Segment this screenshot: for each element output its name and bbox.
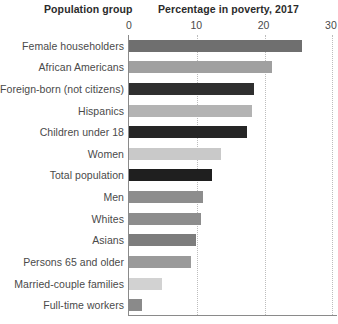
population-group-header: Population group [44,3,133,15]
bar-category-label: Foreign-born (not citizens) [0,83,124,95]
x-tick-label: 20 [258,19,270,31]
bar[interactable] [129,213,201,225]
bar-row[interactable]: Female householders [0,35,338,57]
bar[interactable] [129,148,221,160]
bar-row[interactable]: Men [0,186,338,208]
bar-row[interactable]: Foreign-born (not citizens) [0,78,338,100]
bar-category-label: Married-couple families [14,278,124,290]
bar[interactable] [129,61,272,73]
x-tick-label: 0 [126,19,132,31]
bar-category-label: Asians [92,234,124,246]
bar-category-label: Whites [92,213,124,225]
bar[interactable] [129,278,162,290]
bar[interactable] [129,299,142,311]
bar-category-label: Female householders [22,40,124,52]
bar-row[interactable]: Women [0,143,338,165]
bar-category-label: African Americans [39,61,124,73]
bar-row[interactable]: Whites [0,208,338,230]
figure-baseline [128,315,337,316]
bar-category-label: Total population [50,169,124,181]
x-tick-label: 30 [325,19,337,31]
bar[interactable] [129,191,203,203]
bar-category-label: Persons 65 and older [23,256,124,268]
x-axis-tick-labels: 0102030 [0,19,338,35]
bar[interactable] [129,256,191,268]
bar-category-label: Children under 18 [40,126,124,138]
bar-row[interactable]: Married-couple families [0,273,338,295]
bar-category-label: Full-time workers [43,299,124,311]
bar-row[interactable]: Total population [0,165,338,187]
bar-category-label: Women [88,148,124,160]
bar-row[interactable]: Hispanics [0,100,338,122]
poverty-bar-chart: Population group Percentage in poverty, … [0,0,338,324]
x-tick-label: 10 [190,19,202,31]
bar-row[interactable]: Asians [0,230,338,252]
bar[interactable] [129,169,212,181]
bar[interactable] [129,105,252,117]
bar[interactable] [129,126,247,138]
chart-headers: Population group Percentage in poverty, … [0,0,338,20]
bar[interactable] [129,40,302,52]
bar-rows: Female householdersAfrican AmericansFore… [0,35,338,316]
percentage-header: Percentage in poverty, 2017 [158,3,299,15]
bar-row[interactable]: African Americans [0,57,338,79]
bar[interactable] [129,234,196,246]
bar-category-label: Men [103,191,124,203]
bar[interactable] [129,83,254,95]
bar-row[interactable]: Persons 65 and older [0,251,338,273]
bar-row[interactable]: Full-time workers [0,294,338,316]
bar-row[interactable]: Children under 18 [0,121,338,143]
bar-category-label: Hispanics [78,105,124,117]
